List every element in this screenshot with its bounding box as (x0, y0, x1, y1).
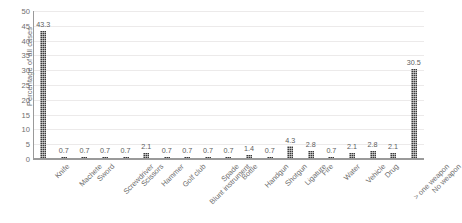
bar-slot: 1.4 (239, 11, 260, 159)
y-tick-label: 30 (22, 66, 30, 75)
y-tick-label: 10 (22, 125, 30, 134)
bar-slot: 43.3 (33, 11, 54, 159)
bar-value-label: 0.7 (162, 146, 172, 155)
y-tick-label: 15 (22, 110, 30, 119)
bar-value-label: 0.7 (265, 146, 275, 155)
x-tick-label: Water (342, 162, 362, 182)
bar-slot: 30.5 (403, 11, 424, 159)
y-tick-label: 25 (22, 81, 30, 90)
bar-value-label: 2.8 (306, 140, 316, 149)
bar-value-label: 2.1 (388, 142, 398, 151)
x-tick-label: Drug (382, 162, 400, 180)
bar-slot: 2.1 (136, 11, 157, 159)
bar-value-label: 2.1 (347, 142, 357, 151)
x-axis-tick-labels: KnifeMacheteSwordScrewdriverScissorsHamm… (33, 160, 424, 223)
bar-slot: 0.7 (156, 11, 177, 159)
bar-value-label: 0.7 (203, 146, 213, 155)
bar-value-label: 0.7 (121, 146, 131, 155)
bar-value-label: 0.7 (182, 146, 192, 155)
bar-slot: 4.3 (280, 11, 301, 159)
bar-value-label: 1.4 (244, 144, 254, 153)
bar[interactable] (40, 31, 46, 159)
bar-slot: 0.7 (218, 11, 239, 159)
bar-series: 43.30.70.70.70.72.10.70.70.70.71.40.74.3… (33, 11, 424, 159)
bar-value-label: 0.7 (326, 146, 336, 155)
y-tick-label: 5 (26, 140, 30, 149)
y-tick-label: 40 (22, 36, 30, 45)
bar-value-label: 2.1 (141, 142, 151, 151)
bar-value-label: 0.7 (223, 146, 233, 155)
bar-slot: 0.7 (259, 11, 280, 159)
bar-slot: 0.7 (198, 11, 219, 159)
y-tick-label: 45 (22, 21, 30, 30)
bar[interactable] (411, 69, 417, 159)
bar-value-label: 30.5 (407, 58, 421, 67)
bar-slot: 0.7 (95, 11, 116, 159)
y-tick-label: 35 (22, 51, 30, 60)
bar-value-label: 2.8 (368, 140, 378, 149)
bar-slot: 2.1 (342, 11, 363, 159)
bar-slot: 2.8 (301, 11, 322, 159)
bar-value-label: 43.3 (36, 20, 50, 29)
bar-value-label: 0.7 (100, 146, 110, 155)
y-tick-label: 0 (26, 155, 30, 164)
x-tick-label: Knife (53, 162, 71, 180)
bar-slot: 0.7 (74, 11, 95, 159)
plot-area: 43.30.70.70.70.72.10.70.70.70.71.40.74.3… (33, 11, 424, 159)
bar-value-label: 4.3 (285, 136, 295, 145)
bar-value-label: 0.7 (79, 146, 89, 155)
y-axis-line (33, 11, 34, 159)
bar-slot: 2.8 (362, 11, 383, 159)
y-tick-label: 20 (22, 95, 30, 104)
bar-slot: 2.1 (383, 11, 404, 159)
bar-slot: 0.7 (177, 11, 198, 159)
bar-slot: 0.7 (115, 11, 136, 159)
bar-value-label: 0.7 (59, 146, 69, 155)
y-tick-label: 50 (22, 7, 30, 16)
bar-slot: 0.7 (321, 11, 342, 159)
bar-slot: 0.7 (54, 11, 75, 159)
